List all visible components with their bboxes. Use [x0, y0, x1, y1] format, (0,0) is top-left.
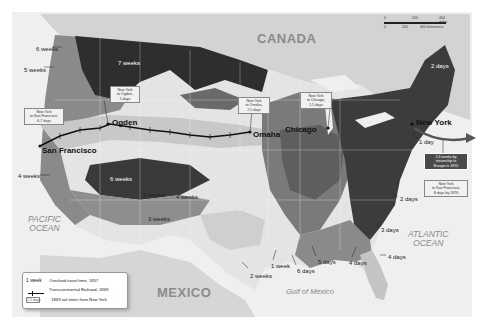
- atlantic-ocean-label: ATLANTIC OCEAN: [408, 230, 448, 249]
- legend-item-overland: 1 week Overland travel time, 1857: [26, 277, 98, 283]
- map-legend: 1 week Overland travel time, 1857 Transc…: [22, 272, 128, 309]
- rail-time-callout: New York to Chicago, 1.5 days: [300, 92, 332, 109]
- new-york-label: New York: [416, 119, 452, 127]
- scale-bar-line: [384, 22, 446, 24]
- travel-time-label: 2 days: [431, 63, 449, 69]
- travel-time-label: 6 weeks: [110, 176, 132, 182]
- new-york-dot: [410, 122, 413, 125]
- scale-miles-200: 200: [412, 16, 418, 20]
- travel-time-label: 4 days: [388, 254, 406, 260]
- rail-time-callout: 2-3 weeks by steamship to Europe in 1870: [424, 153, 468, 170]
- travel-time-label: 4 days: [349, 260, 367, 266]
- travel-time-label: 5 days: [318, 259, 336, 265]
- pacific-ocean-label: PACIFIC OCEAN: [28, 215, 61, 234]
- legend-key-week: 1 week: [26, 277, 48, 283]
- travel-time-label: 3 weeks: [148, 216, 170, 222]
- travel-time-label: 5 weeks: [143, 192, 165, 198]
- legend-item-rail-times: 2.5 days 1869 rail times from New York: [26, 297, 107, 303]
- travel-time-label: 2 weeks: [250, 273, 272, 279]
- legend-label-rail-times: 1869 rail times from New York: [51, 297, 107, 302]
- rail-time-callout: New York to Ogden, 5 days: [110, 86, 140, 103]
- chicago-label: Chicago: [285, 126, 317, 134]
- travel-time-label: 3 days: [381, 227, 399, 233]
- canada-label: CANADA: [257, 32, 316, 45]
- gulf-of-mexico-label: Gulf of Mexico: [286, 288, 334, 296]
- legend-item-railroad: Transcontinental Railroad, 1869: [26, 287, 108, 292]
- omaha-label: Omaha: [253, 131, 280, 139]
- scale-bar: 0 200 400 miles 0 200 400 kilometers: [384, 14, 454, 32]
- scale-miles-0: 0: [384, 16, 386, 20]
- rail-time-callout: New York to San Francisco, 8 days by 187…: [424, 180, 468, 197]
- travel-time-label: 5 weeks: [24, 67, 46, 73]
- rail-time-callout: New York to Omaha, 2.5 days: [238, 97, 270, 114]
- scale-km-400: 400 kilometers: [420, 25, 443, 29]
- travel-time-label: 4 weeks: [176, 194, 198, 200]
- travel-time-label: 1 week: [271, 263, 290, 269]
- ogden-label: Ogden: [112, 119, 137, 127]
- san-francisco-label: San Francisco: [42, 147, 97, 155]
- travel-time-label: 6 weeks: [36, 46, 58, 52]
- legend-label-railroad: Transcontinental Railroad, 1869: [49, 287, 108, 292]
- scale-km-200: 200: [402, 25, 408, 29]
- scale-km-0: 0: [384, 25, 386, 29]
- scale-miles-400: 400 miles: [439, 16, 454, 24]
- mexico-label: MEXICO: [157, 286, 211, 299]
- rail-time-callout: New York to San Francisco, 6-7 days: [24, 108, 64, 125]
- legend-label-overland: Overland travel time, 1857: [49, 278, 98, 283]
- legend-key-callout: 2.5 days: [26, 297, 40, 303]
- travel-time-label: 4 weeks: [18, 173, 40, 179]
- travel-time-label: 7 weeks: [118, 60, 140, 66]
- travel-time-label: 1 day: [419, 139, 434, 145]
- travel-time-label: 6 days: [297, 268, 315, 274]
- travel-time-label: 2 days: [400, 196, 418, 202]
